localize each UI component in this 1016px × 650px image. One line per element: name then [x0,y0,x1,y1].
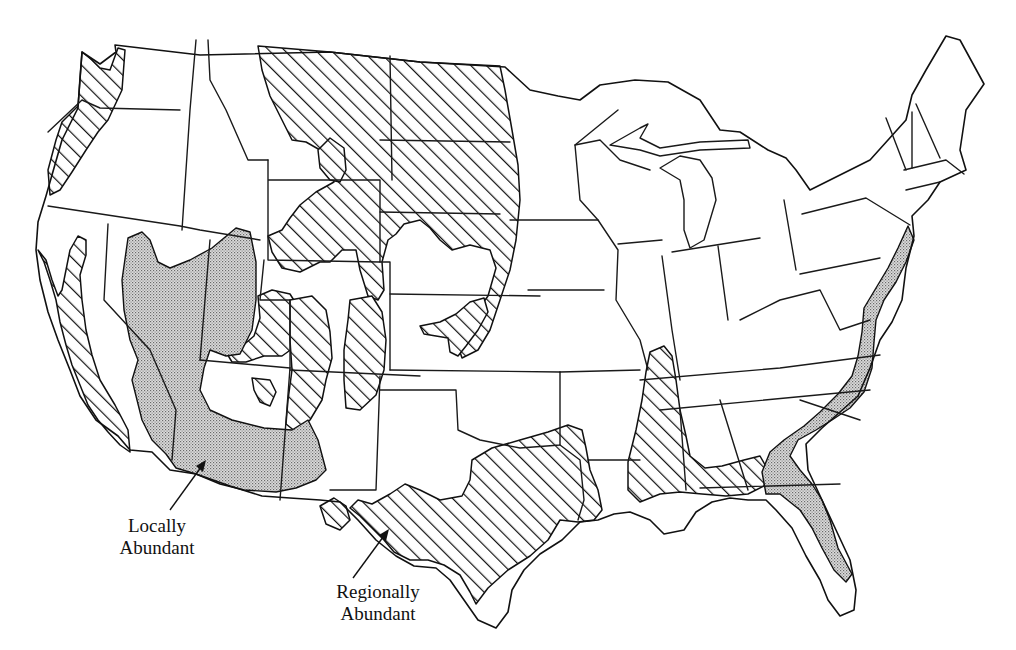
border-ne-ks [390,294,540,296]
arrow-regionally-abundant [353,533,386,578]
border-pa-south [800,258,880,274]
hatch-colorado-central [286,296,332,432]
hatch-mississippi-gulf [628,346,768,502]
border-ny-vt [886,118,906,170]
border-oh-pa [784,200,796,270]
border-mi-in-oh [672,238,760,252]
border-ky-wv-va [740,290,870,330]
border-id-mt [208,40,268,160]
legend-regionally-abundant: Regionally Abundant [318,581,438,625]
border-id-east [182,40,196,230]
border-in-oh [718,246,728,320]
border-nh-me [916,104,940,158]
lake-michigan [660,156,716,248]
hatch-texas-west-tip [320,498,350,530]
hatch-utah-island [252,378,276,406]
stipple-atlantic-coast [762,226,914,582]
legend-regionally-line2: Abundant [318,603,438,625]
hatch-california-coast [38,236,130,452]
border-pa-ny [802,198,910,225]
border-mo-ar [560,370,640,372]
lake-superior [610,124,750,156]
border-ma [904,160,964,174]
border-il-north [618,240,662,244]
border-wi-mi [575,140,650,170]
legend-locally-abundant: Locally Abundant [102,515,212,559]
border-or-ca-nv-id [48,206,260,240]
legend-locally-line1: Locally [102,515,212,537]
legend-locally-line2: Abundant [102,537,212,559]
border-ks-ok [390,370,560,372]
hatch-texas [350,425,602,604]
legend-regionally-line1: Regionally [318,581,438,603]
